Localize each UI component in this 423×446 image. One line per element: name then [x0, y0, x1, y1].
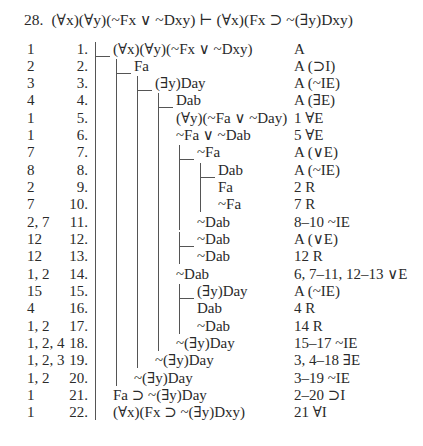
- dependency-set: 2: [27, 179, 35, 196]
- dependency-set: 1: [27, 387, 35, 404]
- line-number: 22.: [69, 404, 88, 421]
- proof-line: 11.(∀x)(∀y)(~Fx ∨ ~Dxy)A: [0, 41, 423, 58]
- line-number: 10.: [69, 196, 88, 213]
- justification: A (⊃I): [294, 58, 335, 75]
- line-number: 9.: [77, 179, 88, 196]
- justification: 14 R: [294, 318, 323, 335]
- proof-line: 1, 214.~Dab6, 7–11, 12–13 ∨E: [0, 266, 423, 283]
- proof-line: 16.~Fa ∨ ~Dab5 ∀E: [0, 127, 423, 144]
- justification: 7 R: [294, 196, 315, 213]
- proof-line: 77.~FaA (∨E): [0, 144, 423, 161]
- line-number: 21.: [69, 387, 88, 404]
- line-number: 1.: [77, 41, 88, 58]
- line-number: 20.: [69, 370, 88, 387]
- line-number: 19.: [69, 352, 88, 369]
- formula: ~Dab: [197, 248, 230, 265]
- dependency-set: 7: [27, 196, 35, 213]
- assumption-underline: [200, 177, 215, 178]
- formula: (∀y)(~Fa ∨ ~Day): [176, 110, 287, 127]
- justification: 3–19 ~IE: [294, 370, 350, 387]
- line-number: 11.: [70, 214, 88, 231]
- dependency-set: 2: [27, 58, 35, 75]
- dependency-set: 1: [27, 110, 35, 127]
- assumption-underline: [179, 298, 194, 299]
- sequent: (∀x)(∀y)(~Fx ∨ ~Dxy) ⊢ (∀x)(Fx ⊃ ~(∃y)Dx…: [51, 11, 353, 28]
- line-number: 4.: [77, 92, 88, 109]
- subproof-scope-line: [179, 232, 180, 264]
- line-number: 18.: [69, 335, 88, 352]
- dependency-set: 1, 2, 3: [27, 352, 65, 369]
- proof-line: 1213.~Dab12 R: [0, 248, 423, 265]
- formula: Fa: [218, 179, 233, 196]
- proof-line: 1515.(∃y)DayA (~IE): [0, 283, 423, 300]
- dependency-set: 1: [27, 41, 35, 58]
- proof-line: 122.(∀x)(Fx ⊃ ~(∃y)Dxy)21 ∀I: [0, 404, 423, 421]
- justification: A (∨E): [294, 144, 338, 161]
- subproof-scope-line: [137, 76, 138, 368]
- dependency-set: 4: [27, 300, 35, 317]
- proof-line: 1, 2, 319.~(∃y)Day3, 4–18 ∃E: [0, 352, 423, 369]
- formula: (∃y)Day: [197, 283, 248, 300]
- justification: 2 R: [294, 179, 315, 196]
- dependency-set: 8: [27, 162, 35, 179]
- proof-line: 33.(∃y)DayA (~IE): [0, 75, 423, 92]
- exercise-number: 28.: [24, 11, 43, 28]
- proof-line: 29.Fa2 R: [0, 179, 423, 196]
- dependency-set: 12: [27, 248, 42, 265]
- formula: ~Fa: [218, 196, 241, 213]
- justification: A (~IE): [294, 162, 340, 179]
- line-number: 15.: [69, 283, 88, 300]
- justification: A (~IE): [294, 283, 340, 300]
- line-number: 3.: [77, 75, 88, 92]
- formula: (∃y)Day: [155, 75, 206, 92]
- subproof-scope-line: [200, 163, 201, 213]
- justification: A: [294, 41, 305, 58]
- subproof-scope-line: [158, 93, 159, 351]
- formula: ~Dab: [197, 318, 230, 335]
- proof-line: 710.~Fa7 R: [0, 196, 423, 213]
- assumption-underline: [179, 159, 194, 160]
- subproof-scope-line: [179, 284, 180, 334]
- proof-line: 44.DabA (∃E): [0, 92, 423, 109]
- formula: ~(∃y)Day: [155, 352, 214, 369]
- assumption-underline: [179, 246, 194, 247]
- line-number: 13.: [69, 248, 88, 265]
- proof-line: 22.FaA (⊃I): [0, 58, 423, 75]
- formula: ~Dab: [176, 266, 209, 283]
- justification: A (∨E): [294, 231, 338, 248]
- line-number: 2.: [77, 58, 88, 75]
- formula: ~Fa: [197, 144, 220, 161]
- justification: 8–10 ~IE: [294, 214, 350, 231]
- proof-line: 15.(∀y)(~Fa ∨ ~Day)1 ∀E: [0, 110, 423, 127]
- justification: 3, 4–18 ∃E: [294, 352, 360, 369]
- line-number: 8.: [77, 162, 88, 179]
- dependency-set: 4: [27, 92, 35, 109]
- dependency-set: 1: [27, 404, 35, 421]
- subproof-scope-line: [179, 145, 180, 229]
- formula: Fa: [134, 58, 149, 75]
- formula: ~Dab: [197, 214, 230, 231]
- dependency-set: 2, 7: [27, 214, 50, 231]
- assumption-underline: [158, 107, 173, 108]
- proof-line: 1, 217.~Dab14 R: [0, 318, 423, 335]
- formula: Fa ⊃ ~(∃y)Day: [113, 387, 207, 404]
- dependency-set: 1, 2: [27, 318, 50, 335]
- formula: ~Fa ∨ ~Dab: [176, 127, 251, 144]
- exercise-title: 28.(∀x)(∀y)(~Fx ∨ ~Dxy) ⊢ (∀x)(Fx ⊃ ~(∃y…: [24, 11, 353, 28]
- assumption-underline: [95, 56, 110, 57]
- assumption-underline: [116, 73, 131, 74]
- formula: (∀x)(Fx ⊃ ~(∃y)Dxy): [113, 404, 245, 421]
- justification: 5 ∀E: [294, 127, 323, 144]
- dependency-set: 12: [27, 231, 42, 248]
- justification: A (∃E): [294, 92, 335, 109]
- formula: Dab: [197, 300, 222, 317]
- proof-line: 1, 2, 418.~(∃y)Day15–17 ~IE: [0, 335, 423, 352]
- line-number: 14.: [69, 266, 88, 283]
- justification: 12 R: [294, 248, 323, 265]
- line-number: 17.: [69, 318, 88, 335]
- assumption-underline: [137, 90, 152, 91]
- dependency-set: 1: [27, 127, 35, 144]
- justification: 6, 7–11, 12–13 ∨E: [294, 266, 407, 283]
- formula: (∀x)(∀y)(~Fx ∨ ~Dxy): [113, 41, 252, 58]
- line-number: 7.: [77, 144, 88, 161]
